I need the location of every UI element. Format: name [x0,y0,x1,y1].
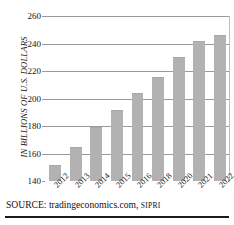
bar [132,93,144,181]
bar [173,57,185,181]
bar [111,110,123,182]
bar [214,35,226,181]
y-tick-label: 140 [28,177,42,186]
y-tick-label: 260 [28,12,42,21]
y-tick-label: 180 [28,122,42,131]
source-text: SOURCE: tradingeconomics.com, [6,199,138,210]
bar [193,41,205,181]
y-tick-label: 240 [28,39,42,48]
y-tick-mark [42,181,45,182]
source-agency: SIPRI [141,201,161,210]
bar [90,127,102,181]
source-note: SOURCE: tradingeconomics.com, SIPRI [6,200,160,210]
y-tick-label: 160 [28,149,42,158]
y-tick-label: 200 [28,94,42,103]
bottom-rule [5,216,229,218]
chart-figure: IN BILLIONS OF U.S. DOLLARS 260240220200… [0,0,234,225]
plot-area: 260240220200180160140 [45,16,230,181]
bar-series [45,16,230,181]
bar [152,77,164,182]
y-tick-label: 220 [28,67,42,76]
